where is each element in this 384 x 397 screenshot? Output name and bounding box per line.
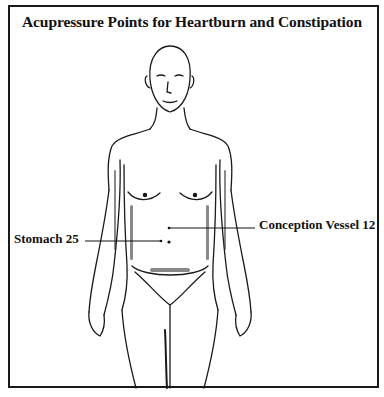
conception-vessel-12-point (168, 227, 171, 230)
body-figure-illustration (0, 0, 384, 397)
navel (167, 240, 170, 243)
stomach-25-label: Stomach 25 (14, 231, 79, 247)
stomach-25-point (160, 240, 163, 243)
conception-vessel-12-label: Conception Vessel 12 (259, 217, 375, 233)
